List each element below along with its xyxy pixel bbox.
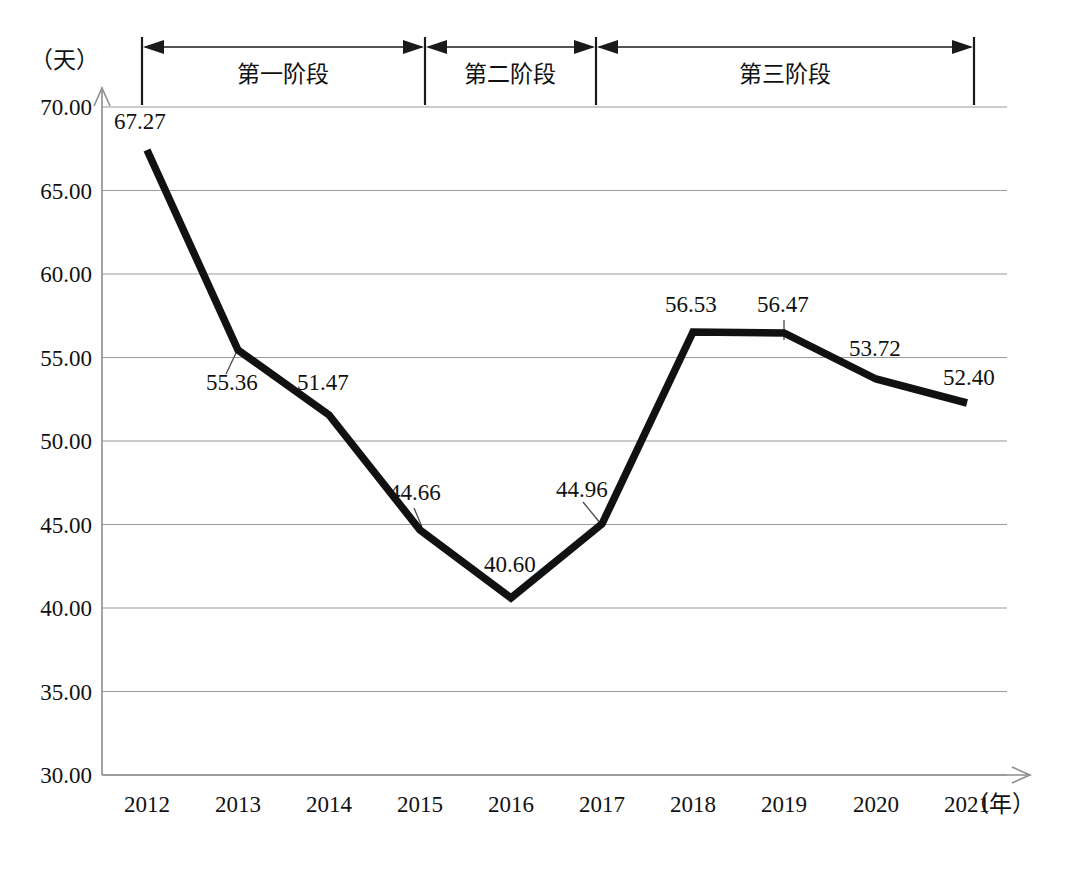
y-tick-label: 40.00 — [40, 596, 92, 621]
y-tick-label: 45.00 — [40, 513, 92, 538]
chart-canvas: 70.00 65.00 60.00 55.00 50.00 45.00 40.0… — [0, 0, 1080, 876]
y-tick-label: 65.00 — [40, 179, 92, 204]
value-label-2017: 44.96 — [556, 477, 608, 502]
value-label-2013: 55.36 — [206, 370, 258, 395]
y-tick-label: 70.00 — [40, 95, 92, 120]
x-tick-label: 2015 — [397, 792, 443, 817]
phase-labels: 第一阶段 第二阶段 第三阶段 — [237, 62, 831, 87]
value-label-2021: 52.40 — [943, 365, 995, 390]
value-label-2019: 56.47 — [757, 292, 809, 317]
x-tick-label: 2019 — [761, 792, 807, 817]
x-tick-label: 2013 — [215, 792, 261, 817]
y-tick-label: 30.00 — [40, 763, 92, 788]
leader-line-2017 — [583, 502, 601, 524]
x-tick-label: 2018 — [670, 792, 716, 817]
phase-3-arrow-left-head-icon — [597, 40, 618, 54]
value-label-2015: 44.66 — [389, 480, 441, 505]
y-tick-label: 50.00 — [40, 429, 92, 454]
phase-2-arrow-left-head-icon — [426, 40, 447, 54]
value-label-2014: 51.47 — [297, 370, 349, 395]
y-axis-unit-label: （天） — [30, 48, 99, 73]
y-tick-label: 35.00 — [40, 680, 92, 705]
phase-arrows — [143, 40, 973, 54]
y-tick-label: 60.00 — [40, 262, 92, 287]
x-axis — [102, 767, 1030, 783]
y-tick-label: 55.00 — [40, 346, 92, 371]
value-label-2016: 40.60 — [484, 552, 536, 577]
value-label-2012: 67.27 — [114, 109, 166, 134]
phase-3-arrow-right-head-icon — [952, 40, 973, 54]
phase-1-arrow-right-head-icon — [403, 40, 424, 54]
phase-label-2: 第二阶段 — [464, 62, 556, 87]
value-label-2018: 56.53 — [665, 292, 717, 317]
phase-label-3: 第三阶段 — [739, 62, 831, 87]
x-tick-label: 2017 — [579, 792, 625, 817]
x-tick-label: 2016 — [488, 792, 534, 817]
x-tick-label: 2012 — [124, 792, 170, 817]
gridlines-group — [102, 107, 1007, 775]
y-tick-labels: 70.00 65.00 60.00 55.00 50.00 45.00 40.0… — [40, 95, 92, 788]
data-series-line — [147, 150, 967, 598]
phase-2-arrow-right-head-icon — [574, 40, 595, 54]
value-leader-lines — [226, 320, 784, 527]
phase-1-arrow-left-head-icon — [143, 40, 164, 54]
data-value-labels: 67.27 55.36 51.47 44.66 40.60 44.96 56.5… — [114, 109, 995, 577]
x-tick-labels: 2012 2013 2014 2015 2016 2017 2018 2019 … — [124, 792, 990, 817]
x-tick-label: 2014 — [306, 792, 353, 817]
line-chart-figure: 70.00 65.00 60.00 55.00 50.00 45.00 40.0… — [0, 0, 1080, 876]
x-axis-unit-label: （年） — [966, 792, 1035, 817]
value-label-2020: 53.72 — [849, 336, 901, 361]
phase-label-1: 第一阶段 — [237, 62, 329, 87]
x-tick-label: 2020 — [853, 792, 899, 817]
